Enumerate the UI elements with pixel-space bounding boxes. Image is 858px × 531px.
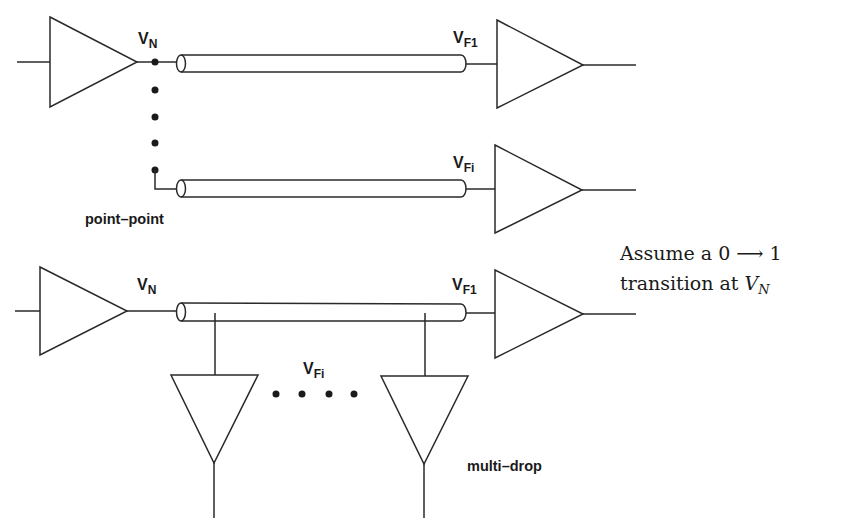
driver-buffer [40,267,127,355]
note-variable-subscript: N [758,282,769,297]
shared-transmission-line [177,303,467,321]
transmission-line-i [177,180,467,197]
label-vf1-bottom: VF1 [452,276,477,297]
note-line-2: transition at VN [620,268,782,305]
label-vfi-bottom: VFi [303,360,324,381]
driver-buffer [50,17,137,107]
node-dots [152,59,159,174]
label-vn-top: VN [138,30,157,51]
note-line-2-text: transition at [620,272,745,294]
caption-multi-drop: multi–drop [467,458,542,474]
drop-n-receiver [381,376,468,464]
receiver-f1-buffer [495,270,583,358]
receiver-fi-buffer [495,145,582,233]
label-vf1-top: VF1 [453,29,478,50]
caption-point-point: point–point [85,211,164,227]
label-vn-bottom: VN [137,276,156,297]
multi-drop-topology [15,267,636,518]
receiver-f1-buffer [497,20,583,108]
branch-wire [155,170,177,189]
note-line-1: Assume a 0 ⟶ 1 [620,238,782,268]
point-point-topology [17,17,636,233]
drop-1-receiver [171,375,258,463]
assumption-note: Assume a 0 ⟶ 1 transition at VN [620,238,782,305]
label-vfi-top: VFi [453,154,474,175]
drop-ellipsis-dots [273,391,358,398]
transmission-line-1 [177,55,467,72]
note-variable: V [745,272,759,294]
